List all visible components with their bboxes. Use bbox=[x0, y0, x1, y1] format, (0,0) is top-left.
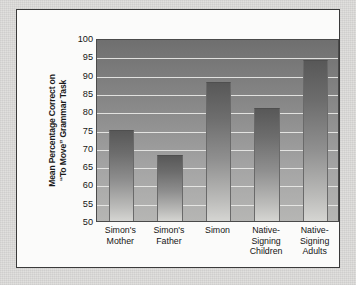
bar bbox=[157, 155, 182, 221]
y-axis-title-line-1: Mean Percentage Correct on bbox=[48, 74, 58, 187]
x-axis-tick-label-line: Simon's bbox=[145, 225, 194, 236]
y-axis-tick-label: 75 bbox=[83, 126, 93, 136]
y-axis-tick-label: 70 bbox=[83, 144, 93, 154]
x-axis-tick-label-line: Native- bbox=[290, 225, 339, 236]
bar bbox=[254, 108, 279, 221]
x-axis-tick-label-line: Signing bbox=[242, 236, 291, 247]
bar-series bbox=[97, 40, 338, 221]
y-axis-tick-label: 90 bbox=[83, 71, 93, 81]
y-axis-tick-label: 60 bbox=[83, 180, 93, 190]
x-axis-tick-label: Native-SigningChildren bbox=[242, 225, 291, 257]
y-axis-tick-label: 65 bbox=[83, 162, 93, 172]
y-axis-tick-label: 80 bbox=[83, 107, 93, 117]
x-axis-tick-label-line: Adults bbox=[290, 246, 339, 257]
x-axis-tick-label: Simon'sMother bbox=[96, 225, 145, 246]
x-axis-tick-label-line: Children bbox=[242, 246, 291, 257]
bar bbox=[206, 82, 231, 221]
x-axis-tick-label: Native-SigningAdults bbox=[290, 225, 339, 257]
x-axis-tick-label-line: Father bbox=[145, 236, 194, 247]
bar bbox=[109, 130, 134, 222]
x-axis-tick-label: Simon bbox=[193, 225, 242, 236]
y-axis-tick-label: 100 bbox=[78, 34, 93, 44]
x-axis-tick-label: Simon'sFather bbox=[145, 225, 194, 246]
y-axis-tick-label: 50 bbox=[83, 217, 93, 227]
x-axis-tick-labels: Simon'sMotherSimon'sFatherSimonNative-Si… bbox=[96, 225, 339, 271]
plot-area bbox=[96, 39, 339, 222]
y-axis-tick-labels: 50556065707580859095100 bbox=[67, 39, 93, 222]
y-axis-tick-label: 85 bbox=[83, 89, 93, 99]
y-axis-tick-label: 55 bbox=[83, 199, 93, 209]
x-axis-tick-label-line: Mother bbox=[96, 236, 145, 247]
bar bbox=[303, 60, 328, 221]
x-axis-tick-label-line: Simon bbox=[193, 225, 242, 236]
y-axis-tick-label: 95 bbox=[83, 52, 93, 62]
x-axis-tick-label-line: Native- bbox=[242, 225, 291, 236]
x-axis-tick-label-line: Simon's bbox=[96, 225, 145, 236]
x-axis-tick-label-line: Signing bbox=[290, 236, 339, 247]
figure-panel: Mean Percentage Correct on “To Move” Gra… bbox=[16, 9, 340, 268]
